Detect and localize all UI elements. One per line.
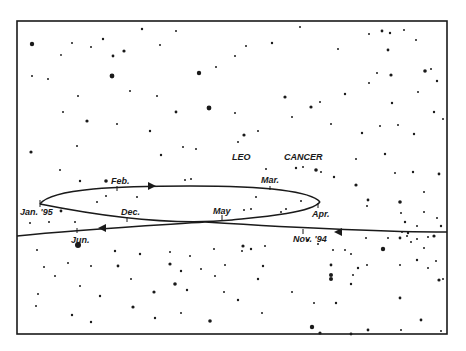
label-mar: Mar. xyxy=(261,175,279,185)
label-may: May xyxy=(213,206,232,216)
label-jun: Jun. xyxy=(71,235,90,245)
mars-path xyxy=(17,186,447,236)
arrow-right-icon xyxy=(148,182,156,190)
label-jan-95: Jan. '95 xyxy=(20,207,54,217)
lower-loop-path xyxy=(40,202,320,222)
constellation-cancer: CANCER xyxy=(284,152,323,162)
jun-track-path xyxy=(17,222,205,236)
label-dec: Dec. xyxy=(121,207,140,217)
upper-loop-path xyxy=(40,186,320,204)
star-field xyxy=(29,26,444,335)
constellation-leo: LEO xyxy=(232,152,251,162)
star-chart: LEO CANCER Feb. Mar. Jan. '95 Dec. May A… xyxy=(0,0,466,351)
nov-track-path xyxy=(205,222,447,232)
label-apr: Apr. xyxy=(311,209,330,219)
chart-frame xyxy=(17,21,447,334)
label-nov-94: Nov. '94 xyxy=(293,234,327,244)
label-feb: Feb. xyxy=(111,176,130,186)
arrow-left-icon xyxy=(98,224,106,232)
